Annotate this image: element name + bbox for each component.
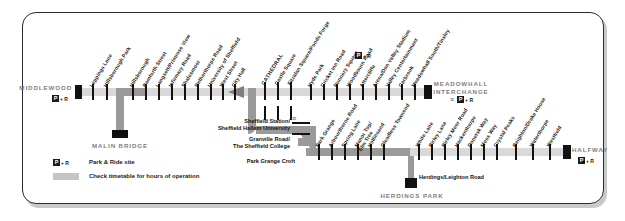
label-sheffield-station-line1: Sheffield Station/ (180, 118, 290, 125)
label-granville-road-line2: The Sheffield College (180, 143, 290, 150)
p-box-icon: P (457, 96, 464, 103)
park-ride-icon-middlewood: P + R (52, 95, 68, 102)
line-malin-bridge-curve (116, 88, 146, 96)
p-box-icon: P (52, 95, 59, 102)
terminus-label-malin-bridge: MALIN BRIDGE (85, 142, 155, 150)
stop-sheffield-station[interactable] (292, 122, 310, 124)
line-park-grange-croft-stub (298, 138, 310, 146)
plus-r-label: + R (586, 158, 594, 164)
terminus-malin-bridge (112, 130, 128, 138)
rail-icon: ≡ (450, 96, 454, 103)
terminus-label-halfway: HALFWAY (572, 146, 620, 154)
terminus-halfway (563, 145, 571, 159)
park-ride-icon-halfway: P + R (578, 157, 594, 164)
label-herdings-leighton-road: Herdings/Leighton Road (419, 174, 539, 181)
plus-r-label: + R (60, 96, 68, 102)
terminus-herdings-park (405, 178, 417, 188)
terminus-middlewood (75, 85, 82, 99)
stop-granville-road[interactable] (292, 133, 310, 135)
rail-interchange-icon: ≡ (292, 115, 296, 122)
terminus-label-herdings-park: HERDINGS PARK (375, 192, 449, 200)
label-sheffield-station-line2: Sheffield Hallam University (180, 125, 290, 132)
label-park-grange-croft: Park Grange Croft (180, 158, 295, 165)
p-box-icon: P (53, 159, 60, 166)
label-granville-road-line1: Granville Road/ (180, 136, 290, 143)
terminus-label-middlewood: MIDDLEWOOD (0, 84, 72, 92)
terminus-label-meadowhall-line2: INTERCHANGE (433, 88, 488, 95)
terminus-label-meadowhall-line1: MEADOWHALL (434, 80, 488, 87)
plus-r-label: + R (61, 160, 69, 166)
line-malin-bridge (116, 96, 124, 134)
junction-arrow (228, 86, 244, 98)
legend-park-ride-icon: P + R (53, 159, 69, 166)
legend-timetable-swatch (53, 173, 79, 180)
plus-r-label: + R (363, 53, 371, 59)
legend-timetable-label: Check timetable for hours of operation (89, 173, 199, 179)
p-box-icon: P (578, 157, 585, 164)
terminus-label-meadowhall: MEADOWHALL INTERCHANGE (431, 80, 491, 96)
park-ride-icon-nunnery: P + R (355, 52, 371, 59)
tram-network-map: Leppings Lane Hillsborough Park Hillsbor… (0, 0, 625, 221)
legend-park-ride-label: Park & Ride site (89, 159, 135, 165)
line-halfway-light (410, 148, 570, 156)
park-ride-icon-meadowhall: ≡ P + R (450, 96, 473, 103)
plus-r-label: + R (465, 97, 473, 103)
p-box-icon: P (355, 52, 362, 59)
